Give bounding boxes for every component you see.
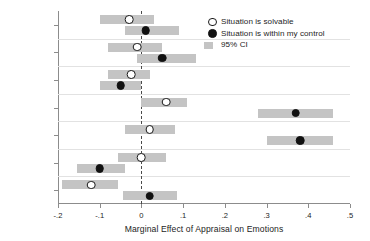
legend-label: Situation is solvable <box>221 16 294 28</box>
ci-track <box>58 124 350 135</box>
x-axis-tick-label: .5 <box>347 211 353 220</box>
point-marker-solvable <box>87 181 96 190</box>
x-axis-tick-label: .2 <box>222 211 228 220</box>
point-marker-control <box>296 136 305 145</box>
x-axis-tick <box>58 204 59 208</box>
category-row <box>58 66 350 94</box>
legend-key-marker <box>203 28 217 40</box>
point-marker-control <box>291 109 300 118</box>
point-marker-solvable <box>137 153 146 162</box>
point-marker-solvable <box>127 70 136 79</box>
point-marker-control <box>141 26 150 35</box>
x-axis-tick-label: .1 <box>180 211 186 220</box>
y-axis-tick <box>54 52 58 53</box>
legend-entry: Situation is solvable <box>203 16 353 28</box>
x-axis-tick <box>350 204 351 208</box>
x-axis-tick <box>141 204 142 208</box>
point-marker-solvable <box>125 15 134 24</box>
legend-entry: Situation is within my control <box>203 28 353 40</box>
ci-track <box>58 53 350 64</box>
legend-key-ci <box>203 39 217 51</box>
y-axis-tick <box>54 25 58 26</box>
legend-ci-swatch <box>204 42 213 50</box>
point-marker-control <box>95 164 104 173</box>
point-marker-solvable <box>145 125 154 134</box>
ci-track <box>58 190 350 201</box>
x-axis-tick-label: 0 <box>139 211 143 220</box>
x-axis-tick-label: .3 <box>263 211 269 220</box>
x-axis-title: Marginal Effect of Appraisal on Emotions <box>58 224 350 234</box>
x-axis-tick <box>225 204 226 208</box>
ci-track <box>58 69 350 80</box>
category-row <box>58 149 350 177</box>
ci-track <box>58 163 350 174</box>
ci-track <box>58 80 350 91</box>
legend-label: Situation is within my control <box>221 28 325 40</box>
point-marker-control <box>116 81 125 90</box>
legend-filled-circle-icon <box>208 29 217 38</box>
chart-legend: Situation is solvableSituation is within… <box>203 16 353 51</box>
point-marker-solvable <box>133 43 142 52</box>
x-axis-tick <box>267 204 268 208</box>
point-marker-solvable <box>162 98 171 107</box>
category-row <box>58 94 350 122</box>
y-axis-tick <box>54 135 58 136</box>
y-axis-tick <box>54 108 58 109</box>
legend-label: 95% CI <box>221 39 248 51</box>
x-axis-tick-label: .4 <box>305 211 311 220</box>
x-axis-tick <box>183 204 184 208</box>
x-axis-tick-label: -.2 <box>54 211 63 220</box>
legend-key-marker <box>203 16 217 28</box>
ci-track <box>58 179 350 190</box>
y-axis-tick <box>54 80 58 81</box>
category-row <box>58 176 350 204</box>
ci-bar <box>125 26 179 35</box>
ci-track <box>58 135 350 146</box>
point-marker-control <box>145 192 154 201</box>
ci-track <box>58 97 350 108</box>
ci-track <box>58 108 350 119</box>
legend-open-circle-icon <box>208 18 217 27</box>
x-axis-tick-label: -.1 <box>95 211 104 220</box>
x-axis-tick <box>308 204 309 208</box>
ci-track <box>58 152 350 163</box>
y-axis-tick <box>54 190 58 191</box>
point-marker-control <box>158 54 167 63</box>
coefficient-plot-figure: AfraidAnxiousAngryHopefulHappyDisappoint… <box>0 0 370 241</box>
x-axis-tick <box>100 204 101 208</box>
legend-entry: 95% CI <box>203 39 353 51</box>
category-row <box>58 121 350 149</box>
y-axis-tick <box>54 163 58 164</box>
